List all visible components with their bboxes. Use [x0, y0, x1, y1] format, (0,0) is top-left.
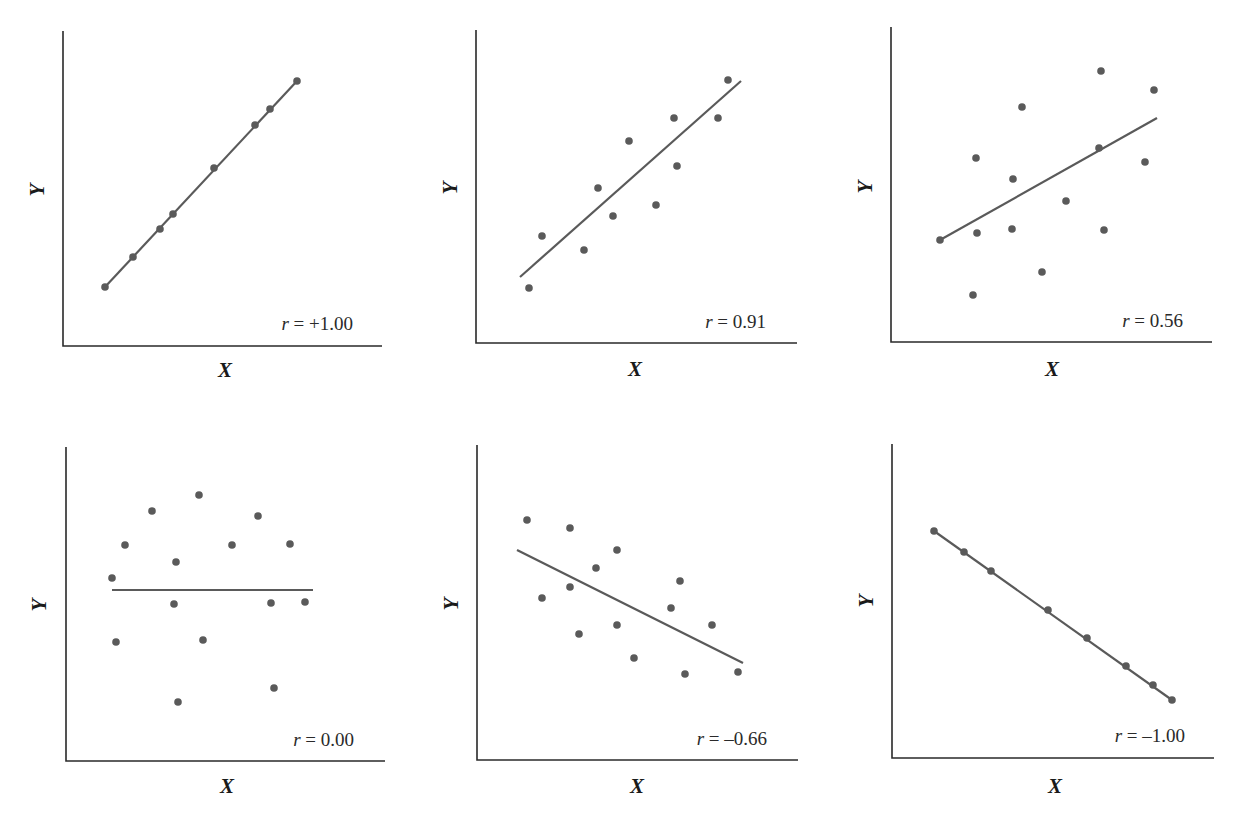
- axes: [892, 444, 1214, 758]
- data-point: [575, 630, 583, 638]
- data-point: [101, 283, 109, 291]
- data-point: [987, 567, 995, 575]
- scatter-panel-2: XYr = 0.91: [438, 30, 797, 381]
- data-point: [714, 114, 722, 122]
- data-point: [673, 162, 681, 170]
- data-point: [121, 541, 129, 549]
- x-axis-label: X: [1047, 774, 1063, 798]
- data-point: [199, 636, 207, 644]
- data-point: [630, 654, 638, 662]
- correlation-annotation: r = +1.00: [281, 313, 353, 334]
- scatter-panel-6: XYr = –1.00: [854, 444, 1214, 798]
- data-point: [538, 232, 546, 240]
- data-point: [676, 577, 684, 585]
- data-point: [267, 599, 275, 607]
- data-point: [681, 670, 689, 678]
- data-point: [1009, 175, 1017, 183]
- data-point: [1044, 606, 1052, 614]
- data-point: [708, 621, 716, 629]
- data-point: [724, 76, 732, 84]
- y-axis-label: Y: [25, 181, 49, 196]
- axes: [476, 30, 797, 343]
- axes: [63, 31, 382, 346]
- data-point: [286, 540, 294, 548]
- data-point: [930, 527, 938, 535]
- data-point: [936, 236, 944, 244]
- data-point: [129, 253, 137, 261]
- data-point: [625, 137, 633, 145]
- y-axis-label: Y: [439, 595, 463, 610]
- regression-line: [940, 118, 1157, 240]
- x-axis-label: X: [627, 357, 643, 381]
- correlation-annotation: r = –0.66: [697, 728, 767, 749]
- data-point: [169, 210, 177, 218]
- data-point: [1168, 696, 1176, 704]
- data-point: [254, 512, 262, 520]
- axes: [891, 27, 1212, 342]
- y-axis-label: Y: [854, 592, 878, 607]
- x-axis-label: X: [1044, 357, 1060, 381]
- data-point: [156, 225, 164, 233]
- data-point: [210, 164, 218, 172]
- data-point: [293, 77, 301, 85]
- data-point: [1150, 86, 1158, 94]
- data-point: [1062, 197, 1070, 205]
- data-point: [108, 574, 116, 582]
- correlation-scatterplot-grid: XYr = +1.00XYr = 0.91XYr = 0.56XYr = 0.0…: [0, 0, 1246, 822]
- correlation-annotation: r = –1.00: [1115, 725, 1185, 746]
- axes: [66, 447, 385, 761]
- data-point: [566, 583, 574, 591]
- data-point: [170, 600, 178, 608]
- data-point: [1038, 268, 1046, 276]
- data-point: [960, 548, 968, 556]
- x-axis-label: X: [217, 358, 233, 382]
- y-axis-label: Y: [438, 179, 462, 194]
- data-point: [195, 491, 203, 499]
- data-point: [523, 516, 531, 524]
- data-point: [613, 546, 621, 554]
- data-point: [972, 154, 980, 162]
- axes: [477, 445, 798, 760]
- data-point: [1122, 662, 1130, 670]
- data-point: [613, 621, 621, 629]
- data-point: [973, 229, 981, 237]
- data-point: [1100, 226, 1108, 234]
- data-point: [609, 212, 617, 220]
- data-point: [1083, 634, 1091, 642]
- data-point: [580, 246, 588, 254]
- data-point: [538, 594, 546, 602]
- data-point: [652, 201, 660, 209]
- correlation-annotation: r = 0.91: [705, 311, 766, 332]
- data-point: [1095, 144, 1103, 152]
- data-point: [592, 564, 600, 572]
- data-point: [112, 638, 120, 646]
- scatter-panel-5: XYr = –0.66: [439, 445, 798, 798]
- data-point: [228, 541, 236, 549]
- correlation-annotation: r = 0.56: [1122, 310, 1183, 331]
- data-point: [148, 507, 156, 515]
- data-point: [525, 284, 533, 292]
- data-point: [174, 698, 182, 706]
- scatter-panel-4: XYr = 0.00: [27, 447, 385, 798]
- y-axis-label: Y: [27, 596, 51, 611]
- data-point: [172, 558, 180, 566]
- data-point: [734, 668, 742, 676]
- scatter-panel-3: XYr = 0.56: [853, 27, 1212, 381]
- correlation-annotation: r = 0.00: [293, 729, 354, 750]
- data-point: [594, 184, 602, 192]
- data-point: [266, 105, 274, 113]
- data-point: [1149, 681, 1157, 689]
- data-point: [566, 524, 574, 532]
- regression-line: [520, 81, 741, 277]
- y-axis-label: Y: [853, 178, 877, 193]
- regression-line: [517, 550, 743, 663]
- regression-line: [934, 531, 1172, 700]
- data-point: [969, 291, 977, 299]
- data-point: [301, 598, 309, 606]
- data-point: [1097, 67, 1105, 75]
- data-point: [1141, 158, 1149, 166]
- x-axis-label: X: [219, 774, 235, 798]
- x-axis-label: X: [629, 774, 645, 798]
- data-point: [670, 114, 678, 122]
- data-point: [251, 121, 259, 129]
